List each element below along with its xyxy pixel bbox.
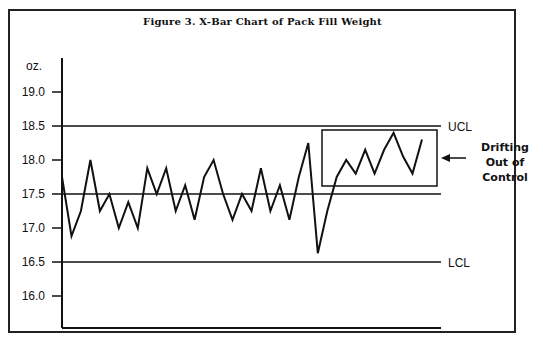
xbar-series-line	[62, 133, 422, 253]
annotation-line-1: Drifting	[481, 141, 529, 154]
annotation-line-3: Control	[482, 171, 527, 184]
ucl-label: UCL	[448, 120, 472, 134]
xbar-chart: oz. 19.018.518.017.517.016.516.0 UCL LCL…	[0, 0, 543, 350]
annotation-line-2: Out of	[486, 156, 525, 169]
y-ticks: 19.018.518.017.517.016.516.0	[22, 85, 62, 303]
y-tick-label: 17.0	[22, 221, 46, 235]
drift-highlight-box	[322, 130, 437, 186]
y-tick-label: 19.0	[22, 85, 46, 99]
y-tick-label: 18.0	[22, 153, 46, 167]
lcl-label: LCL	[448, 256, 470, 270]
arrow-left-icon	[441, 154, 450, 162]
y-tick-label: 17.5	[22, 187, 46, 201]
y-tick-label: 16.5	[22, 255, 46, 269]
y-tick-label: 16.0	[22, 289, 46, 303]
y-tick-label: 18.5	[22, 119, 46, 133]
y-axis-units: oz.	[26, 59, 42, 73]
